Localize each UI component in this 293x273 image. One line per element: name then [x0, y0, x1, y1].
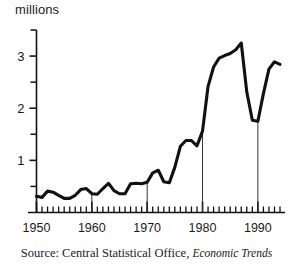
x-tick-label: 1980	[189, 221, 217, 235]
y-axis-ticks	[30, 30, 37, 186]
x-axis-ticks	[37, 202, 281, 213]
source-publication-title: Economic Trends	[192, 247, 272, 259]
source-prefix-text: Source: Central Statistical Office,	[21, 246, 193, 260]
x-axis-tick-labels: 19501960197019801990	[23, 221, 272, 235]
x-tick-label: 1950	[23, 221, 51, 235]
chart-figure: millions 123 19501960197019801990 Source…	[0, 0, 293, 273]
y-tick-label: 3	[17, 49, 24, 64]
x-tick-label: 1970	[133, 221, 161, 235]
data-series-line	[37, 43, 281, 198]
x-tick-label: 1960	[78, 221, 106, 235]
x-tick-label: 1990	[244, 221, 272, 235]
y-tick-label: 1	[17, 153, 24, 168]
y-axis-tick-labels: 123	[17, 49, 24, 168]
source-caption: Source: Central Statistical Office, Econ…	[0, 246, 293, 261]
y-tick-label: 2	[17, 101, 24, 116]
line-chart-plot: 123 19501960197019801990	[0, 0, 293, 245]
